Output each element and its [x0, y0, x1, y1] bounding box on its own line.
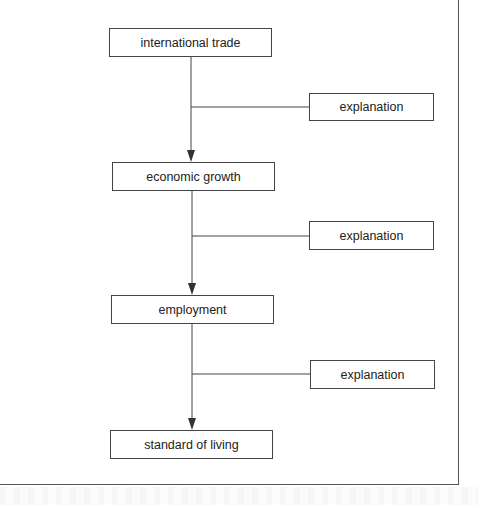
node-label: standard of living: [144, 438, 239, 452]
explanation-label: explanation: [341, 368, 405, 382]
node-standard-of-living: standard of living: [110, 430, 273, 459]
explanation-box-3: explanation: [310, 360, 435, 389]
node-economic-growth: economic growth: [112, 162, 275, 191]
node-employment: employment: [111, 295, 274, 324]
node-label: employment: [158, 303, 226, 317]
node-international-trade: international trade: [109, 28, 272, 57]
node-label: international trade: [140, 36, 240, 50]
explanation-label: explanation: [340, 229, 404, 243]
explanation-box-2: explanation: [309, 221, 434, 250]
arrowhead-icon: [188, 283, 196, 295]
explanation-label: explanation: [340, 100, 404, 114]
node-label: economic growth: [146, 170, 241, 184]
arrowhead-icon: [188, 418, 196, 430]
arrowhead-icon: [187, 150, 195, 162]
explanation-box-1: explanation: [309, 93, 434, 121]
